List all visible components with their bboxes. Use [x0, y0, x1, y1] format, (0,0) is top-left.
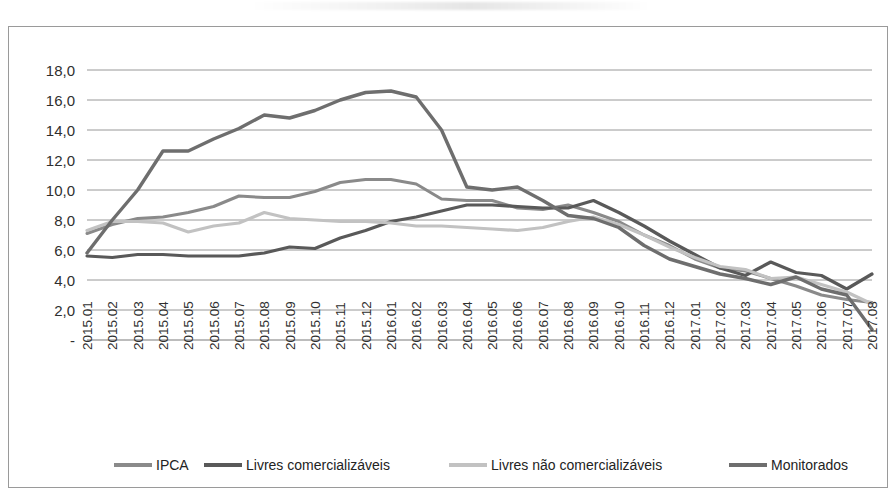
line-chart: -2,04,06,08,010,012,014,016,018,0 2015.0…	[9, 27, 887, 487]
x-axis-tick-label: 2015.03	[131, 301, 146, 350]
series-line-1	[87, 201, 872, 290]
x-axis-tick-label: 2015.07	[232, 301, 247, 350]
x-axis-tick-label: 2015.06	[207, 301, 222, 350]
series-line-3	[87, 91, 872, 330]
x-axis-tick-label: 2017.07	[840, 301, 855, 350]
x-axis-tick-label: 2015.02	[105, 301, 120, 350]
x-axis-tick-label: 2015.11	[333, 302, 348, 350]
x-axis-tick-label: 2016.02	[409, 301, 424, 350]
x-axis-tick-label: 2015.05	[181, 301, 196, 350]
legend-label-3[interactable]: Monitorados	[771, 457, 848, 473]
y-axis-tick-label: 12,0	[46, 152, 75, 169]
y-axis-tick-label: 2,0	[54, 302, 75, 319]
x-axis-tick-label: 2017.01	[688, 301, 703, 350]
x-axis-tick-labels: 2015.012015.022015.032015.042015.052015.…	[80, 301, 880, 350]
x-axis-tick-label: 2016.03	[435, 301, 450, 350]
x-axis-tick-label: 2015.04	[156, 301, 171, 350]
x-axis-tick-label: 2017.03	[738, 301, 753, 350]
x-axis-tick-label: 2017.05	[789, 301, 804, 350]
series-lines	[87, 91, 872, 330]
x-axis-tick-label: 2016.07	[536, 301, 551, 350]
x-axis-tick-label: 2016.10	[612, 301, 627, 350]
chart-container: -2,04,06,08,010,012,014,016,018,0 2015.0…	[8, 26, 888, 488]
x-axis-tick-label: 2016.08	[561, 301, 576, 350]
x-axis-tick-label: 2015.12	[359, 301, 374, 350]
legend-label-0[interactable]: IPCA	[156, 457, 189, 473]
y-axis-tick-label: 14,0	[46, 122, 75, 139]
y-axis-tick-label: 10,0	[46, 182, 75, 199]
x-axis-tick-label: 2016.12	[662, 301, 677, 350]
y-axis-tick-label: 4,0	[54, 272, 75, 289]
legend-label-1[interactable]: Livres comercializáveis	[246, 457, 390, 473]
x-axis-tick-label: 2016.04	[460, 301, 475, 350]
y-axis-tick-labels: -2,04,06,08,010,012,014,016,018,0	[46, 62, 75, 349]
x-axis-tick-label: 2015.01	[80, 301, 95, 350]
x-axis-tick-label: 2015.10	[308, 301, 323, 350]
x-axis-tick-label: 2017.08	[865, 301, 880, 350]
y-axis-tick-label: 6,0	[54, 242, 75, 259]
y-axis-tick-label: 8,0	[54, 212, 75, 229]
x-axis-tick-label: 2017.02	[713, 301, 728, 350]
x-axis-tick-label: 2016.06	[510, 301, 525, 350]
y-axis-tick-label: 18,0	[46, 62, 75, 79]
scan-artifact	[250, 2, 650, 10]
y-axis-tick-label: -	[70, 332, 75, 349]
x-axis-tick-label: 2016.09	[586, 301, 601, 350]
x-axis-tick-label: 2015.08	[257, 301, 272, 350]
series-line-0	[87, 180, 872, 303]
series-line-2	[87, 213, 872, 305]
x-axis-tick-label: 2016.05	[485, 301, 500, 350]
x-axis-tick-label: 2015.09	[283, 301, 298, 350]
legend-label-2[interactable]: Livres não comercializáveis	[491, 457, 662, 473]
y-axis-tick-label: 16,0	[46, 92, 75, 109]
x-axis-tick-label: 2016.11	[637, 302, 652, 350]
chart-legend: IPCALivres comercializáveisLivres não co…	[114, 457, 848, 473]
x-axis-tick-label: 2017.04	[764, 301, 779, 350]
x-axis-tick-label: 2016.01	[384, 301, 399, 350]
x-axis-tick-label: 2017.06	[814, 301, 829, 350]
